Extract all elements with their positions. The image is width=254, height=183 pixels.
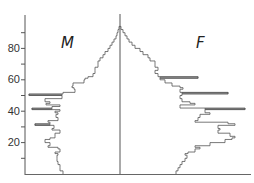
- age-bar: [60, 149, 120, 152]
- age-bar: [116, 36, 120, 39]
- age-bar: [120, 147, 200, 149]
- age-bar: [120, 143, 210, 146]
- male-bars: [29, 26, 120, 174]
- age-bar: [120, 86, 180, 88]
- age-bar: [108, 48, 120, 51]
- female-label: F: [196, 34, 205, 52]
- age-bar: [56, 114, 120, 117]
- age-bar: [95, 70, 120, 73]
- age-bar: [45, 139, 120, 142]
- age-bar: [63, 171, 120, 174]
- age-bar: [120, 78, 160, 80]
- age-bar: [48, 121, 120, 123]
- age-bar: [120, 106, 180, 108]
- age-bar: [120, 125, 218, 128]
- age-bar: [55, 111, 120, 113]
- age-bar: [85, 78, 120, 80]
- age-bar: [55, 152, 120, 154]
- age-bar: [120, 105, 180, 107]
- age-bar: [73, 83, 120, 86]
- age-bar: [120, 45, 135, 48]
- male-label: M: [61, 34, 74, 52]
- age-bar: [120, 168, 178, 171]
- age-bar: [120, 52, 143, 55]
- age-bar: [50, 102, 120, 104]
- y-axis: 80 60 40 20: [8, 15, 25, 175]
- age-bar: [120, 55, 148, 58]
- age-bar: [48, 146, 120, 148]
- age-bar: [95, 67, 120, 70]
- age-bar: [72, 86, 120, 88]
- age-bar: [57, 155, 120, 158]
- age-bar: [120, 114, 200, 117]
- male-outline: [29, 26, 120, 174]
- age-bar: [120, 155, 187, 158]
- age-bar: [103, 55, 120, 58]
- age-bar: [120, 110, 205, 112]
- age-bar: [50, 122, 120, 124]
- age-bar: [98, 61, 120, 64]
- age-bar: [60, 105, 120, 107]
- y-tick-label-40: 40: [8, 105, 20, 117]
- y-axis-ticks: [21, 33, 25, 159]
- age-bar: [120, 64, 155, 67]
- population-pyramid-chart: 80 60 40 20 M F: [0, 0, 254, 183]
- age-bar: [58, 113, 120, 115]
- age-bar: [105, 52, 120, 55]
- y-tick-label-80: 80: [8, 42, 20, 54]
- age-bar: [110, 45, 120, 48]
- age-bar: [120, 96, 180, 99]
- age-bar: [58, 117, 120, 120]
- age-bar: [120, 67, 158, 70]
- age-bar: [98, 64, 120, 67]
- age-bar: [120, 121, 195, 123]
- age-bar: [120, 89, 180, 92]
- age-bar: [74, 88, 120, 90]
- age-bar: [120, 113, 210, 115]
- female-outline: [120, 26, 245, 174]
- age-bar: [120, 139, 225, 142]
- age-bar: [55, 133, 120, 136]
- age-bar: [120, 146, 195, 148]
- age-bar: [120, 130, 218, 133]
- age-bar: [120, 128, 220, 130]
- age-bar: [58, 147, 120, 149]
- age-bar: [93, 74, 120, 77]
- age-bar: [60, 110, 120, 112]
- age-bar: [54, 125, 120, 128]
- age-bar: [57, 158, 120, 161]
- age-bar: [60, 168, 120, 171]
- age-bar: [120, 136, 235, 138]
- age-bar: [120, 83, 172, 86]
- age-bar: [120, 36, 127, 39]
- age-bar: [50, 138, 120, 140]
- age-bar: [120, 70, 155, 73]
- age-bar: [120, 74, 158, 77]
- age-bar: [120, 58, 150, 61]
- age-bar: [62, 96, 120, 99]
- age-bar: [58, 154, 120, 156]
- age-bar: [45, 99, 120, 102]
- age-bar: [75, 89, 120, 92]
- age-bar: [58, 161, 120, 164]
- age-bar: [100, 58, 120, 61]
- age-bar: [120, 158, 185, 161]
- age-bar: [120, 99, 182, 102]
- age-bar: [120, 149, 195, 152]
- age-bar: [84, 80, 120, 83]
- age-bar: [52, 128, 120, 130]
- y-tick-label-60: 60: [8, 73, 20, 85]
- age-bar: [120, 154, 185, 156]
- age-bar: [120, 102, 190, 104]
- age-bar: [120, 133, 230, 136]
- age-bar: [120, 117, 198, 120]
- age-bar: [120, 48, 140, 51]
- age-bar: [50, 143, 120, 146]
- age-bar: [120, 39, 129, 42]
- age-bar: [120, 161, 182, 164]
- age-bar: [55, 136, 120, 138]
- age-bar: [114, 39, 120, 42]
- age-bar: [120, 171, 176, 174]
- age-bar: [120, 138, 232, 140]
- age-bar: [120, 88, 183, 90]
